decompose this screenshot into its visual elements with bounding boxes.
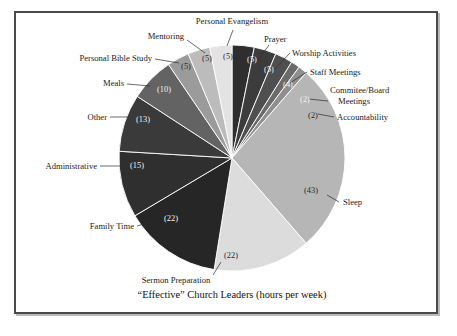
value-committee-board: (2) [300,95,310,104]
value-administrative: (15) [130,161,144,170]
value-worship-activities: (5) [264,65,274,74]
label-staff-meetings: Staff Meetings [310,67,361,77]
pie-chart: Personal Evangelism Mentoring Personal B… [0,0,457,336]
value-sleep: (43) [304,186,318,195]
label-personal-evangelism: Personal Evangelism [196,16,269,26]
label-administrative: Administrative [45,161,97,171]
value-other: (13) [136,115,150,124]
pie-slice-group [119,45,345,271]
label-prayer: Prayer [264,34,287,44]
value-accountability: (2) [308,111,318,120]
label-personal-bible-study: Personal Bible Study [79,53,152,63]
value-family-time: (22) [164,214,178,223]
value-mentoring: (5) [202,54,212,63]
chart-caption: “Effective” Church Leaders (hours per we… [138,289,327,301]
label-accountability: Accountability [337,112,389,122]
value-personal-evangelism: (5) [223,52,233,61]
label-committee-board-line1: Commitee/Board [330,85,390,95]
label-sermon-preparation: Sermon Preparation [142,275,211,285]
figure-root: Personal Evangelism Mentoring Personal B… [0,0,457,336]
value-sermon-preparation: (22) [224,251,238,260]
leader-personal-evangelism [227,30,233,46]
label-other: Other [87,112,107,122]
value-prayer: (5) [247,55,257,64]
label-meals: Meals [103,78,125,88]
label-worship-activities: Worship Activities [292,48,357,58]
value-staff-meetings: (4) [283,80,293,89]
value-personal-bible-study: (5) [181,62,191,71]
value-meals: (10) [157,85,171,94]
label-committee-board-line2: Meetings [338,96,371,106]
label-mentoring: Mentoring [148,31,185,41]
label-sleep: Sleep [343,197,362,207]
label-family-time: Family Time [90,221,134,231]
